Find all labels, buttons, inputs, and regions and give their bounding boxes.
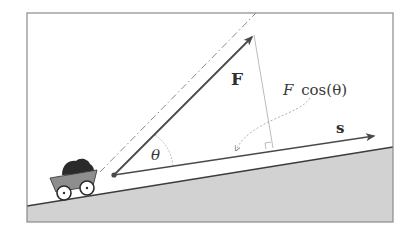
projection-label-var: F	[282, 81, 294, 99]
displacement-label: s	[336, 119, 344, 137]
cart-rear-axle	[63, 192, 65, 194]
projection-label: F cos(θ)	[282, 81, 347, 99]
application-point	[111, 172, 116, 177]
work-diagram: F s θ F cos(θ)	[0, 0, 415, 233]
angle-label: θ	[151, 146, 160, 164]
force-label: F	[231, 69, 243, 89]
projection-label-func: cos(θ)	[301, 81, 347, 99]
cart-front-axle	[86, 187, 88, 189]
